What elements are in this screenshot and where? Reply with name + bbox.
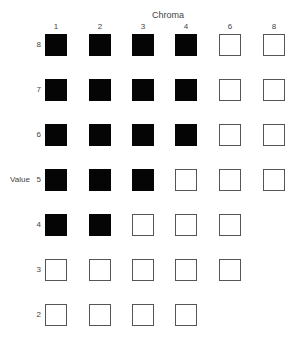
filled-square <box>175 34 197 56</box>
empty-square <box>263 79 285 101</box>
filled-square <box>45 79 67 101</box>
filled-square <box>89 124 111 146</box>
chroma-column-label: 4 <box>175 22 197 31</box>
value-row-label: 3 <box>29 265 41 274</box>
filled-square <box>45 34 67 56</box>
empty-square <box>175 304 197 326</box>
empty-square <box>219 169 241 191</box>
empty-square <box>263 124 285 146</box>
empty-square <box>89 304 111 326</box>
empty-square <box>175 169 197 191</box>
filled-square <box>89 214 111 236</box>
filled-square <box>132 124 154 146</box>
filled-square <box>45 214 67 236</box>
chroma-column-label: 8 <box>263 22 285 31</box>
empty-square <box>219 34 241 56</box>
empty-square <box>263 34 285 56</box>
filled-square <box>132 34 154 56</box>
filled-square <box>89 169 111 191</box>
empty-square <box>219 259 241 281</box>
filled-square <box>45 124 67 146</box>
empty-square <box>219 124 241 146</box>
empty-square <box>132 259 154 281</box>
empty-square <box>175 214 197 236</box>
value-row-label: 8 <box>29 40 41 49</box>
chroma-column-label: 1 <box>45 22 67 31</box>
value-axis-title: Value <box>10 175 30 184</box>
filled-square <box>45 169 67 191</box>
filled-square <box>132 79 154 101</box>
value-row-label: 2 <box>29 310 41 319</box>
empty-square <box>219 79 241 101</box>
value-row-label: 7 <box>29 85 41 94</box>
chroma-column-label: 6 <box>219 22 241 31</box>
empty-square <box>45 259 67 281</box>
empty-square <box>219 214 241 236</box>
empty-square <box>263 169 285 191</box>
empty-square <box>89 259 111 281</box>
empty-square <box>45 304 67 326</box>
value-row-label: 4 <box>29 220 41 229</box>
value-row-label: 6 <box>29 130 41 139</box>
empty-square <box>132 304 154 326</box>
empty-square <box>132 214 154 236</box>
chroma-column-label: 2 <box>89 22 111 31</box>
filled-square <box>132 169 154 191</box>
filled-square <box>175 124 197 146</box>
value-row-label: 5 <box>29 175 41 184</box>
empty-square <box>175 259 197 281</box>
chroma-axis-title: Chroma <box>152 10 184 20</box>
filled-square <box>89 34 111 56</box>
chroma-column-label: 3 <box>132 22 154 31</box>
filled-square <box>89 79 111 101</box>
filled-square <box>175 79 197 101</box>
